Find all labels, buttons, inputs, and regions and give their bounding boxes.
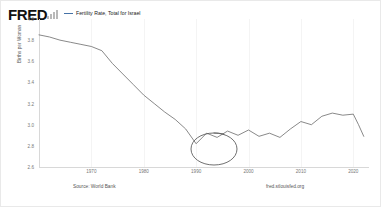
- y-tick-label: 3.0: [28, 122, 37, 127]
- chart-footer: Source: World Bank fred.stlouisfed.org: [1, 184, 381, 198]
- series-line-path: [39, 35, 364, 144]
- x-tick-label: 1970: [86, 169, 96, 174]
- chart-legend: Fertility Rate, Total for Israel: [64, 10, 140, 16]
- x-tick-label: 2000: [243, 169, 253, 174]
- x-axis-line: [39, 167, 369, 168]
- x-tick-label: 1990: [191, 169, 201, 174]
- legend-line-swatch: [64, 13, 73, 14]
- x-tick-label: 2020: [348, 169, 358, 174]
- y-tick-label: 3.6: [28, 59, 37, 64]
- series-line-chart: [39, 19, 369, 167]
- legend-label: Fertility Rate, Total for Israel: [76, 10, 140, 16]
- x-tick-label: 2010: [296, 169, 306, 174]
- y-tick-label: 3.2: [28, 101, 37, 106]
- y-tick-label: 4.0: [28, 17, 37, 22]
- y-axis-label: Births per Woman: [17, 25, 22, 63]
- y-tick-label: 2.8: [28, 143, 37, 148]
- x-tick-label: 1980: [139, 169, 149, 174]
- fred-url-label: fred.stlouisfed.org: [266, 184, 304, 189]
- y-tick-label: 3.8: [28, 38, 37, 43]
- source-note: Source: World Bank: [73, 184, 116, 189]
- fred-chart-frame: FRED Fertility Rate, Total for Israel Bi…: [0, 0, 381, 207]
- y-tick-label: 3.4: [28, 80, 37, 85]
- bar-chart-icon: [47, 10, 58, 19]
- y-tick-label: 2.6: [28, 165, 37, 170]
- plot-area: Births per Woman 4.03.83.63.43.23.02.82.…: [39, 19, 369, 167]
